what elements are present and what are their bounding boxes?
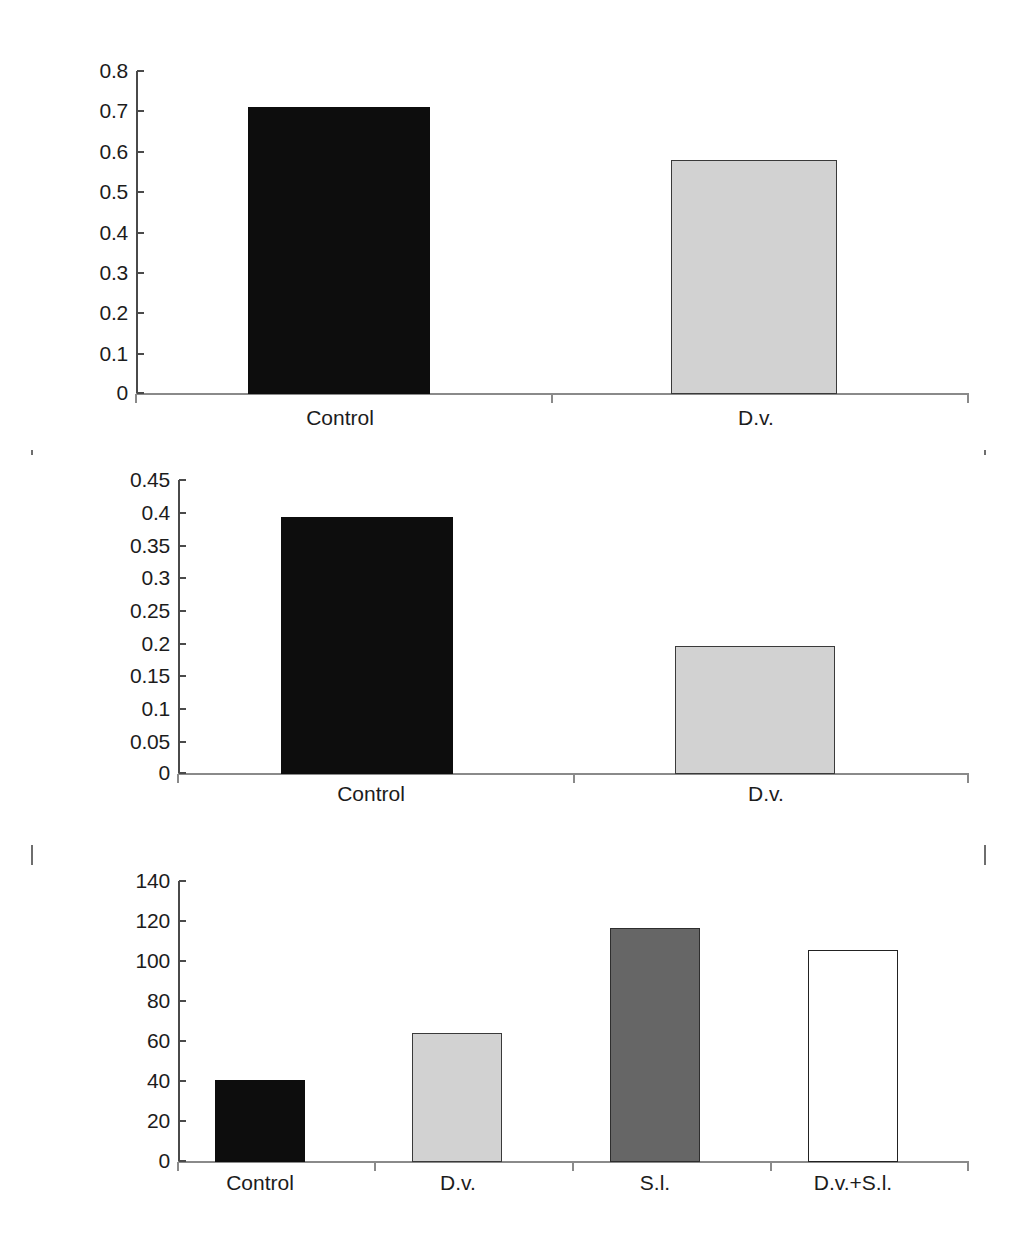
chart-i-y-tick-label: 0.4	[60, 221, 128, 245]
chart-iii-x-tick	[177, 1162, 179, 1171]
chart-panel-iii: DIMBOA (ug/g dry weight) (iii) 140 120 1…	[0, 865, 1019, 1256]
chart-iii-y-tick	[179, 1160, 186, 1162]
chart-ii-y-tick-label: 0.2	[96, 632, 170, 656]
chart-ii-y-tick-label: 0.35	[96, 534, 170, 558]
chart-i-y-tick-label: 0.1	[60, 342, 128, 366]
chart-ii-x-tick-label: Control	[337, 782, 405, 806]
chart-i-x-tick-label: D.v.	[738, 406, 774, 430]
chart-ii-y-tick	[179, 741, 186, 743]
chart-iii-y-tick	[179, 1040, 186, 1042]
chart-iii-x-tick-label: D.v.+S.l.	[814, 1171, 892, 1195]
chart-ii-y-axis-line	[178, 480, 180, 775]
chart-iii-x-tick-label: D.v.	[440, 1171, 476, 1195]
chart-iii-bar-control	[215, 1080, 305, 1162]
chart-ii-y-tick	[179, 512, 186, 514]
chart-panel-i: Caterpillar growth (mg) S. littoralis (i…	[0, 0, 1019, 450]
chart-ii-y-tick	[179, 577, 186, 579]
chart-i-x-tick	[967, 394, 969, 403]
chart-iii-plot-area: 140 120 100 80 60 40 20 0 Control D.v. S…	[0, 865, 1019, 1256]
chart-iii-y-tick-label: 100	[100, 949, 170, 973]
chart-ii-y-tick	[179, 479, 186, 481]
chart-iii-y-tick-label: 40	[100, 1069, 170, 1093]
chart-iii-y-tick-label: 60	[100, 1029, 170, 1053]
chart-iii-y-tick	[179, 920, 186, 922]
chart-i-y-tick-label: 0.7	[60, 99, 128, 123]
chart-iii-bar-dv-sl	[808, 950, 898, 1162]
chart-iii-x-tick	[967, 1162, 969, 1171]
chart-i-y-tick	[137, 110, 144, 112]
chart-i-y-tick	[137, 353, 144, 355]
chart-i-y-tick	[137, 151, 144, 153]
chart-ii-x-tick	[573, 774, 575, 783]
chart-iii-bar-dv	[412, 1033, 502, 1162]
chart-ii-y-tick	[179, 643, 186, 645]
chart-ii-bar-control	[281, 517, 453, 774]
chart-iii-y-tick	[179, 1000, 186, 1002]
chart-i-y-tick-label: 0.3	[60, 261, 128, 285]
chart-i-x-tick-label: Control	[306, 406, 374, 430]
chart-iii-y-tick	[179, 1120, 186, 1122]
chart-iii-x-tick-label: S.l.	[640, 1171, 670, 1195]
chart-panel-ii: Lesion diameter (mm) S. turcica (ii) 0.4…	[0, 455, 1019, 845]
chart-ii-y-tick-label: 0.45	[96, 468, 170, 492]
chart-ii-y-tick-label: 0.05	[96, 730, 170, 754]
chart-iii-y-tick	[179, 1080, 186, 1082]
chart-iii-y-tick-label: 0	[100, 1149, 170, 1173]
chart-ii-y-tick	[179, 708, 186, 710]
chart-iii-x-tick	[770, 1162, 772, 1171]
chart-i-y-tick	[137, 232, 144, 234]
chart-i-y-tick-label: 0.6	[60, 140, 128, 164]
chart-ii-y-tick-label: 0	[96, 761, 170, 785]
chart-i-y-tick-label: 0.5	[60, 180, 128, 204]
chart-i-bar-dv	[671, 160, 837, 394]
chart-ii-y-tick	[179, 610, 186, 612]
chart-ii-x-tick-label: D.v.	[748, 782, 784, 806]
chart-ii-plot-area: 0.45 0.4 0.35 0.3 0.25 0.2 0.15 0.1 0.05…	[0, 455, 1019, 845]
chart-iii-y-tick-label: 120	[100, 909, 170, 933]
chart-ii-y-tick	[179, 772, 186, 774]
chart-iii-x-tick	[374, 1162, 376, 1171]
chart-ii-y-tick-label: 0.1	[96, 697, 170, 721]
chart-ii-y-tick	[179, 545, 186, 547]
chart-ii-y-tick-label: 0.3	[96, 566, 170, 590]
chart-i-bar-control	[248, 107, 430, 394]
chart-i-y-tick-label: 0	[60, 381, 128, 405]
chart-iii-y-tick-label: 20	[100, 1109, 170, 1133]
chart-i-x-tick	[551, 394, 553, 403]
chart-iii-y-tick	[179, 880, 186, 882]
chart-ii-x-tick	[967, 774, 969, 783]
chart-iii-x-tick-label: Control	[226, 1171, 294, 1195]
chart-i-y-tick	[137, 70, 144, 72]
chart-i-y-tick	[137, 312, 144, 314]
chart-i-y-tick	[137, 191, 144, 193]
chart-ii-x-tick	[177, 774, 179, 783]
chart-i-y-tick-label: 0.2	[60, 301, 128, 325]
chart-ii-y-tick-label: 0.25	[96, 599, 170, 623]
chart-i-y-tick	[137, 272, 144, 274]
chart-i-y-tick	[137, 392, 144, 394]
chart-ii-y-tick	[179, 675, 186, 677]
chart-iii-y-tick-label: 140	[100, 869, 170, 893]
chart-i-y-tick-label: 0.8	[60, 59, 128, 83]
chart-i-plot-area: 0.8 0.7 0.6 0.5 0.4 0.3 0.2 0.1 0 Contro…	[0, 0, 1019, 450]
chart-ii-bar-dv	[675, 646, 835, 774]
chart-iii-y-tick	[179, 960, 186, 962]
chart-ii-y-tick-label: 0.4	[96, 501, 170, 525]
chart-i-x-tick	[135, 394, 137, 403]
chart-ii-y-tick-label: 0.15	[96, 664, 170, 688]
chart-iii-y-tick-label: 80	[100, 989, 170, 1013]
chart-iii-bar-sl	[610, 928, 700, 1162]
chart-iii-x-tick	[572, 1162, 574, 1171]
